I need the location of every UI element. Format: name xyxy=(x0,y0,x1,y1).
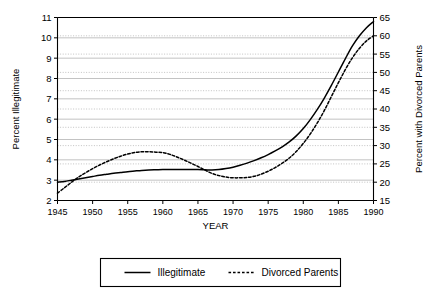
y-tick-label: 2 xyxy=(46,195,51,206)
y-tick-label: 7 xyxy=(46,93,51,104)
y-tick-label: 10 xyxy=(41,32,52,43)
x-tick-label: 1975 xyxy=(258,207,278,217)
gridlines xyxy=(58,18,374,183)
y-axis-right-title: Percent with Divorced Parents xyxy=(413,45,424,173)
x-tick-label: 1960 xyxy=(153,207,173,217)
y-axis-left-title: Percent Illegitimate xyxy=(10,69,21,150)
y2-tick-label: 30 xyxy=(380,140,391,151)
x-tick-label: 1985 xyxy=(328,207,348,217)
chart-legend: IllegitimateDivorced Parents xyxy=(101,259,341,287)
x-tick-label: 1970 xyxy=(223,207,243,217)
x-tick-label: 1945 xyxy=(47,207,67,217)
axis-titles: YEARPercent IllegitimatePercent with Div… xyxy=(10,45,424,231)
y2-tick-label: 45 xyxy=(380,85,391,96)
y2-tick-label: 65 xyxy=(380,12,391,23)
y-tick-label: 6 xyxy=(46,114,51,125)
y-tick-label: 9 xyxy=(46,53,51,64)
x-axis-ticks: 1945195019551960196519701975198019851990 xyxy=(47,201,383,217)
x-tick-label: 1965 xyxy=(188,207,208,217)
y2-tick-label: 20 xyxy=(380,177,391,188)
y2-tick-label: 25 xyxy=(380,158,391,169)
x-axis-title: YEAR xyxy=(203,220,229,231)
y-axis-left-ticks: 234567891011 xyxy=(41,12,58,206)
y2-tick-label: 40 xyxy=(380,103,391,114)
y2-tick-label: 55 xyxy=(380,49,391,60)
y-tick-label: 5 xyxy=(46,134,51,145)
y-tick-label: 11 xyxy=(42,12,52,23)
x-tick-label: 1980 xyxy=(293,207,313,217)
y2-tick-label: 60 xyxy=(380,30,391,41)
series-line-1 xyxy=(58,22,374,183)
y-tick-label: 4 xyxy=(46,154,51,165)
y2-tick-label: 15 xyxy=(380,195,391,206)
x-tick-label: 1950 xyxy=(83,207,103,217)
y-axis-right-ticks: 1520253035404550556065 xyxy=(374,12,391,206)
legend-label-1: Illegitimate xyxy=(158,267,206,278)
y2-tick-label: 50 xyxy=(380,67,391,78)
chart-figure: 1945195019551960196519701975198019851990… xyxy=(0,0,440,296)
y-tick-label: 3 xyxy=(46,175,51,186)
legend-label-2: Divorced Parents xyxy=(262,267,339,278)
y2-tick-label: 35 xyxy=(380,122,391,133)
x-tick-label: 1955 xyxy=(118,207,138,217)
line-chart: 1945195019551960196519701975198019851990… xyxy=(0,0,440,296)
x-tick-label: 1990 xyxy=(363,207,383,217)
series-lines xyxy=(58,22,374,194)
y-tick-label: 8 xyxy=(46,73,51,84)
